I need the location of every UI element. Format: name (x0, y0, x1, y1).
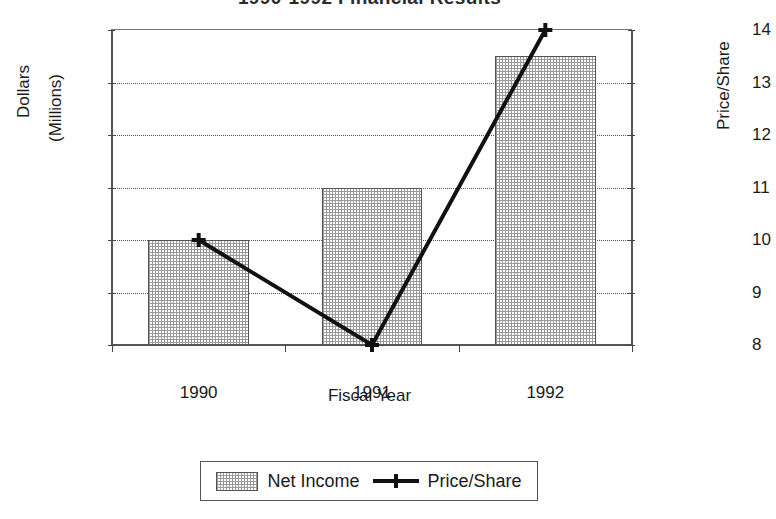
x-tick (632, 345, 633, 352)
chart-legend: Net Income Price/Share (200, 461, 538, 501)
y-tick-label-secondary: 10 (752, 230, 776, 250)
legend-label: Price/Share (428, 471, 522, 492)
y-tick-secondary (628, 240, 635, 241)
legend-label: Net Income (267, 471, 359, 492)
y-tick-secondary (628, 135, 635, 136)
y-axis-title-secondary: Price/Share (714, 41, 734, 130)
legend-item-price-per-share: Price/Share (373, 471, 522, 492)
y-tick-label-secondary: 14 (752, 20, 776, 40)
plot-area: 0123456 891011121314 199019911992 (112, 30, 632, 345)
y-tick-label-secondary: 9 (752, 283, 776, 303)
x-tick (459, 345, 460, 352)
y-tick-secondary (628, 188, 635, 189)
x-tick (112, 345, 113, 352)
y-tick (108, 135, 115, 136)
y-tick-label-secondary: 13 (752, 73, 776, 93)
legend-item-net-income: Net Income (216, 471, 359, 492)
legend-swatch-icon (216, 472, 258, 491)
x-tick-label: 1990 (139, 383, 259, 403)
y-axis-title-primary-line2: (Millions) (46, 74, 66, 142)
chart-title: 1990-1992 Financial Results (0, 0, 739, 9)
y-tick-secondary (628, 30, 635, 31)
y-tick-label-secondary: 8 (752, 335, 776, 355)
y-axis-title-primary: Dollars (14, 65, 34, 118)
y-tick-secondary (628, 83, 635, 84)
y-tick-secondary (628, 293, 635, 294)
legend-line-plus-icon (373, 474, 419, 488)
y-tick (108, 240, 115, 241)
y-tick-label-secondary: 11 (752, 178, 776, 198)
y-tick (108, 30, 115, 31)
bar (495, 56, 596, 345)
y-tick-label-secondary: 12 (752, 125, 776, 145)
x-tick-label: 1992 (485, 383, 605, 403)
bar (148, 240, 249, 345)
y-tick (108, 188, 115, 189)
y-tick (108, 293, 115, 294)
bar (322, 188, 423, 346)
y-tick (108, 83, 115, 84)
plot-frame-top (111, 29, 632, 30)
x-tick-label: 1991 (312, 383, 432, 403)
x-tick (285, 345, 286, 352)
